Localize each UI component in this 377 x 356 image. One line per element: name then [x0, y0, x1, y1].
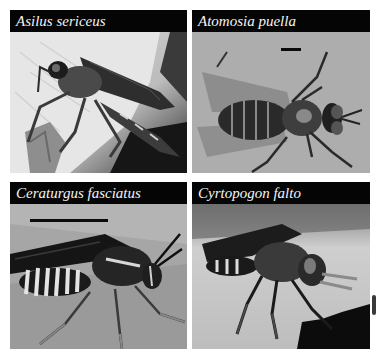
scale-bar [281, 48, 301, 51]
panel-ceraturgus-fasciatus: Ceraturgus fasciatus [10, 182, 187, 349]
robber-fly-side-view-image [10, 32, 187, 173]
photo-ceraturgus-fasciatus [10, 204, 187, 349]
page-edge-mark [372, 295, 376, 315]
panel-title: Atomosia puella [192, 10, 370, 32]
panel-title: Asilus sericeus [10, 10, 187, 32]
hairy-robber-fly-image [192, 204, 370, 349]
panel-title: Ceraturgus fasciatus [10, 182, 187, 204]
photo-cyrtopogon-falto [192, 204, 370, 349]
banded-robber-fly-image [10, 204, 187, 349]
panel-atomosia-puella: Atomosia puella [192, 10, 370, 173]
panel-title: Cyrtopogon falto [192, 182, 370, 204]
panel-cyrtopogon-falto: Cyrtopogon falto [192, 182, 370, 349]
photo-asilus-sericeus [10, 32, 187, 173]
scale-bar [30, 219, 108, 222]
robber-fly-dorsal-view-image [192, 32, 370, 173]
panel-asilus-sericeus: Asilus sericeus [10, 10, 187, 173]
photo-atomosia-puella [192, 32, 370, 173]
